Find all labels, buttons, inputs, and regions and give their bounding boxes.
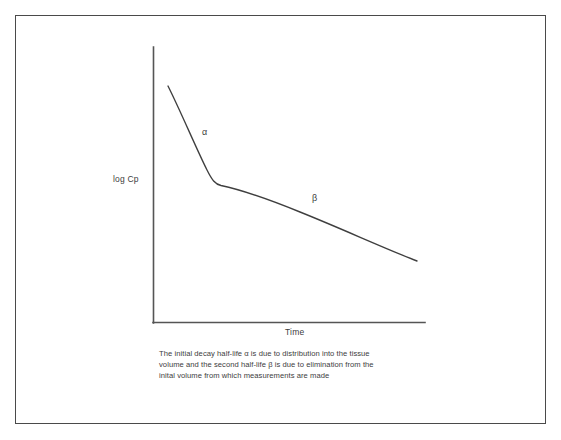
y-axis-label: log Cp xyxy=(113,174,139,184)
caption-line-3: inital volume from which measurements ar… xyxy=(159,370,409,381)
caption-line-2: volume and the second half-life β is due… xyxy=(159,359,409,370)
caption-line-1: The initial decay half-life α is due to … xyxy=(159,348,409,359)
x-axis-label: Time xyxy=(285,327,304,337)
alpha-phase-annotation: α xyxy=(202,127,207,137)
pharmacokinetic-decay-chart: log Cp Time α β The initial decay half-l… xyxy=(0,0,561,440)
beta-phase-annotation: β xyxy=(312,193,317,203)
decay-curve xyxy=(168,86,417,261)
figure-page: log Cp Time α β The initial decay half-l… xyxy=(0,0,561,440)
figure-caption: The initial decay half-life α is due to … xyxy=(159,348,409,382)
